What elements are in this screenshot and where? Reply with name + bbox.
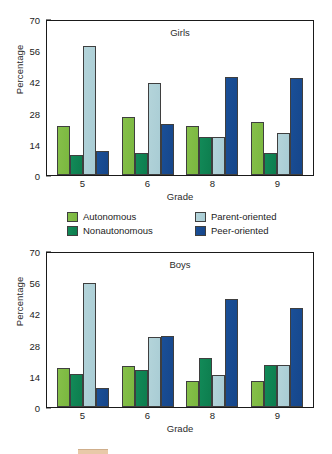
y-tick-label: 42 [29, 309, 40, 320]
bar [277, 365, 290, 407]
legend-label: Peer-oriented [211, 225, 269, 236]
y-tick-label: 28 [29, 340, 40, 351]
y-tick-label: 42 [29, 77, 40, 88]
x-tick-label: 8 [187, 178, 239, 192]
bar [135, 153, 148, 175]
bar [199, 358, 212, 407]
x-axis-label-girls: Grade [46, 191, 314, 202]
bar-groups-girls [47, 21, 313, 175]
bar-group [251, 253, 303, 407]
chart-panel-boys: Percentage 01428425670 Boys 5689 Grade [0, 240, 332, 446]
x-tick-label: 5 [57, 178, 109, 192]
bar [96, 388, 109, 407]
bar-group [251, 21, 303, 175]
bar [186, 381, 199, 407]
bar-group [57, 253, 109, 407]
y-tick-label: 14 [29, 371, 40, 382]
bar [83, 283, 96, 407]
bar [161, 336, 174, 407]
plot-area-girls: Girls [46, 20, 314, 176]
plot-area-boys: Boys [46, 252, 314, 408]
bar [199, 137, 212, 175]
bar [264, 365, 277, 407]
legend-swatch-peer [195, 226, 206, 236]
x-tick-label: 5 [57, 410, 109, 424]
legend-swatch-autonomous [67, 212, 78, 222]
x-axis-label-boys: Grade [46, 423, 314, 434]
bar-group [57, 21, 109, 175]
bar-group [122, 21, 174, 175]
bar-group [122, 253, 174, 407]
bar [135, 370, 148, 407]
y-tick-label: 0 [35, 403, 40, 414]
legend-swatch-parent [195, 212, 206, 222]
bar [122, 366, 135, 407]
bar-group [186, 21, 238, 175]
legend-label: Autonomous [83, 211, 136, 222]
legend-item-parent: Parent-oriented [195, 211, 276, 222]
clipped-swatch-artifact [78, 449, 108, 454]
y-tick-label: 0 [35, 171, 40, 182]
bar [225, 77, 238, 175]
bar [212, 375, 225, 407]
y-axis-ticks-girls: 01428425670 [0, 20, 46, 176]
bar [225, 299, 238, 407]
y-tick-label: 70 [29, 247, 40, 258]
x-tick-label: 9 [252, 410, 304, 424]
bar [251, 381, 264, 407]
bar [122, 117, 135, 175]
bar [57, 126, 70, 175]
bar-group [186, 253, 238, 407]
bar [96, 151, 109, 176]
y-tick-label: 56 [29, 46, 40, 57]
bar [83, 46, 96, 175]
chart-legend: AutonomousNonautonomousParent-orientedPe… [0, 211, 332, 239]
bar [251, 122, 264, 175]
bar [70, 155, 83, 175]
bar [290, 78, 303, 175]
x-axis-ticks-girls: 5689 [46, 178, 314, 192]
bar [186, 126, 199, 175]
y-axis-ticks-boys: 01428425670 [0, 252, 46, 408]
legend-swatch-nonautonomous [67, 226, 78, 236]
bar [148, 83, 161, 175]
figure: Percentage 01428425670 Girls 5689 Grade … [0, 0, 332, 454]
chart-panel-girls: Percentage 01428425670 Girls 5689 Grade [0, 8, 332, 208]
y-tick-label: 28 [29, 108, 40, 119]
legend-item-peer: Peer-oriented [195, 225, 269, 236]
bar [57, 368, 70, 407]
bar [290, 308, 303, 407]
x-axis-ticks-boys: 5689 [46, 410, 314, 424]
bar [161, 124, 174, 175]
bar [277, 133, 290, 175]
y-tick-label: 70 [29, 15, 40, 26]
y-tick-label: 14 [29, 139, 40, 150]
bar [264, 153, 277, 175]
legend-item-autonomous: Autonomous [67, 211, 136, 222]
bar [212, 137, 225, 175]
bar [148, 337, 161, 407]
bar-groups-boys [47, 253, 313, 407]
x-tick-label: 9 [252, 178, 304, 192]
x-tick-label: 6 [122, 410, 174, 424]
x-tick-label: 6 [122, 178, 174, 192]
bar [70, 374, 83, 407]
x-tick-label: 8 [187, 410, 239, 424]
y-tick-label: 56 [29, 278, 40, 289]
legend-label: Nonautonomous [83, 225, 153, 236]
legend-item-nonautonomous: Nonautonomous [67, 225, 153, 236]
legend-label: Parent-oriented [211, 211, 276, 222]
